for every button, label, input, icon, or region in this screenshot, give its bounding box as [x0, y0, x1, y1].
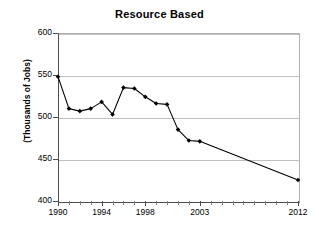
x-tick-label: 1990: [38, 207, 78, 217]
y-tick-label: 400: [26, 195, 52, 205]
x-tick-mark-major: [298, 201, 299, 206]
x-tick-mark-minor: [254, 201, 255, 205]
chart-figure: Resource Based (Thousands of Jobs) 60055…: [0, 0, 319, 236]
x-tick-label: 2003: [180, 207, 220, 217]
x-tick-mark-minor: [265, 201, 266, 205]
x-tick-mark-minor: [113, 201, 114, 205]
x-tick-label: 1998: [125, 207, 165, 217]
y-tick-label: 500: [26, 111, 52, 121]
x-tick-mark-minor: [156, 201, 157, 205]
y-tick-mark: [53, 75, 58, 76]
y-tick-label: 550: [26, 69, 52, 79]
y-tick-mark: [53, 159, 58, 160]
y-tick-mark: [53, 117, 58, 118]
y-tick-mark: [53, 33, 58, 34]
x-tick-mark-minor: [178, 201, 179, 205]
x-tick-mark-minor: [167, 201, 168, 205]
x-tick-mark-major: [102, 201, 103, 206]
x-tick-mark-minor: [211, 201, 212, 205]
x-tick-mark-major: [145, 201, 146, 206]
x-tick-mark-minor: [69, 201, 70, 205]
x-tick-mark-minor: [233, 201, 234, 205]
x-tick-label: 1994: [82, 207, 122, 217]
gridline: [59, 118, 299, 119]
x-tick-mark-minor: [91, 201, 92, 205]
x-tick-label: 2012: [278, 207, 318, 217]
x-tick-mark-minor: [123, 201, 124, 205]
y-tick-label: 450: [26, 153, 52, 163]
chart-data-summary: Resource Based: [0, 0, 1, 1]
x-tick-mark-minor: [243, 201, 244, 205]
x-tick-mark-major: [200, 201, 201, 206]
x-tick-mark-major: [58, 201, 59, 206]
gridline: [59, 160, 299, 161]
chart-title: Resource Based: [0, 8, 319, 20]
gridline: [59, 76, 299, 77]
y-tick-label: 600: [26, 27, 52, 37]
plot-area: [58, 33, 300, 203]
x-tick-mark-minor: [287, 201, 288, 205]
x-tick-mark-minor: [80, 201, 81, 205]
gridline: [59, 34, 299, 35]
x-tick-mark-minor: [134, 201, 135, 205]
x-tick-mark-minor: [222, 201, 223, 205]
x-tick-mark-minor: [189, 201, 190, 205]
x-tick-mark-minor: [276, 201, 277, 205]
